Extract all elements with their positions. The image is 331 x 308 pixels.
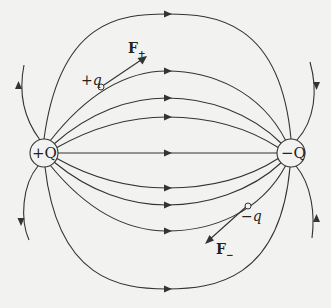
force-symbol: F: [128, 40, 138, 56]
force-positive-label: F+: [128, 40, 146, 59]
arrow-icon: [164, 150, 172, 157]
field-line-bottom-outer: [45, 167, 290, 289]
arrow-icon: [313, 214, 320, 222]
field-line-outer-right-up: [297, 62, 314, 140]
arrow-icon: [164, 95, 172, 102]
force-symbol: F: [216, 241, 226, 257]
force-subscript: +: [138, 49, 146, 59]
field-line-upper-2: [54, 98, 282, 144]
field-line-lower-1: [56, 158, 279, 188]
arrow-icon: [15, 81, 22, 89]
sign: −: [241, 208, 253, 224]
field-line-lower-2: [54, 162, 282, 205]
force-subscript: −: [226, 250, 234, 260]
field-line-outer-left-up: [22, 65, 40, 140]
arrow-icon: [164, 114, 172, 121]
arrow-icon: [164, 228, 172, 235]
field-line-outer-right-down: [296, 166, 313, 238]
arrow-icon: [164, 286, 172, 293]
positive-test-label: +q: [81, 72, 102, 88]
negative-charge-label: −Q: [281, 144, 306, 162]
sign: +: [81, 72, 93, 88]
force-vector-positive: [101, 58, 144, 87]
negative-test-label: −q: [241, 208, 262, 224]
field-line-diagram: +Q −Q +q −q F+ F−: [0, 0, 331, 308]
arrow-icon: [164, 185, 172, 192]
arrow-icon: [164, 11, 172, 18]
field-line-outer-left-down: [24, 166, 38, 240]
arrow-icon: [164, 202, 172, 209]
field-line-upper-3: [56, 117, 279, 148]
symbol: q: [253, 208, 262, 224]
force-negative-label: F−: [216, 241, 234, 260]
arrow-icon: [164, 68, 172, 75]
positive-charge-label: +Q: [32, 144, 57, 162]
symbol: q: [93, 72, 102, 88]
arrow-icon: [18, 218, 25, 226]
